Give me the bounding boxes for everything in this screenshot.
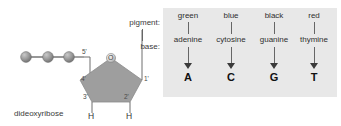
base-letter-cytosine: C — [210, 72, 252, 83]
pigment-label-guanine: black — [253, 12, 295, 20]
column-stem-cytosine — [231, 22, 232, 34]
phosphate-sphere-gamma — [21, 52, 32, 63]
base-name-adenine: adenine — [167, 36, 209, 44]
hydrogen-label-three-prime: H — [88, 112, 94, 121]
pigment-label-cytosine: blue — [210, 12, 252, 20]
base-column-thymine: red thymine T — [293, 8, 335, 97]
base-letter-guanine: G — [253, 72, 295, 83]
two-prime-label: 2' — [124, 94, 129, 101]
pigment-label-adenine: green — [167, 12, 209, 20]
arrow-head-thymine — [310, 63, 318, 69]
base-name-cytosine: cytosine — [210, 36, 252, 44]
nucleotide-base-key-figure: O 5' 4' 1' 3' 2' H H dideoxyribose pigme… — [0, 0, 341, 126]
hydrogen-label-two-prime: H — [126, 112, 132, 121]
four-prime-label: 4' — [81, 76, 86, 83]
sugar-ring-pentagon — [80, 58, 142, 102]
arrow-shaft-cytosine — [231, 47, 232, 64]
arrow-head-guanine — [270, 63, 278, 69]
ring-oxygen-label: O — [108, 54, 113, 61]
arrow-shaft-guanine — [274, 47, 275, 64]
column-stem-thymine — [314, 22, 315, 34]
pigment-label-stem — [142, 29, 143, 41]
three-prime-label: 3' — [83, 94, 88, 101]
arrow-shaft-adenine — [188, 47, 189, 64]
base-column-guanine: black guanine G — [253, 8, 295, 97]
phosphate-sphere-alpha — [64, 52, 75, 63]
base-column-adenine: green adenine A — [167, 8, 209, 97]
arrow-shaft-thymine — [314, 47, 315, 64]
pigment-row-label: pigment: — [104, 19, 160, 27]
one-prime-label: 1' — [144, 76, 149, 83]
base-pigment-panel: green adenine A blue cytosine C black gu… — [163, 8, 337, 97]
column-stem-guanine — [274, 22, 275, 34]
column-stem-adenine — [188, 22, 189, 34]
pigment-label-thymine: red — [293, 12, 335, 20]
base-name-guanine: guanine — [253, 36, 295, 44]
base-name-thymine: thymine — [293, 36, 335, 44]
base-row-label: base: — [108, 43, 160, 51]
phosphate-spheres — [21, 52, 75, 63]
dideoxyribose-label: dideoxyribose — [14, 110, 63, 118]
base-column-cytosine: blue cytosine C — [210, 8, 252, 97]
base-letter-thymine: T — [293, 72, 335, 83]
five-prime-label: 5' — [82, 49, 87, 56]
phosphate-sphere-beta — [43, 52, 54, 63]
base-letter-adenine: A — [167, 72, 209, 83]
arrow-head-adenine — [184, 63, 192, 69]
arrow-head-cytosine — [227, 63, 235, 69]
